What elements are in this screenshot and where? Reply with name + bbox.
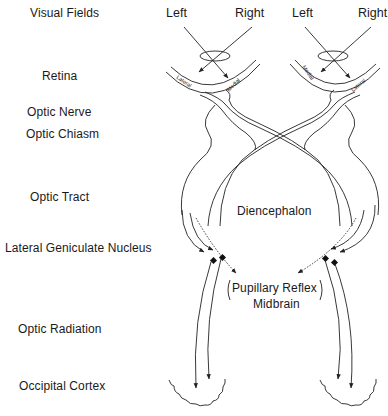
pupillary-branch-left	[196, 218, 236, 273]
retina-labels: Lateral Medial Medial Lateral	[175, 64, 366, 93]
radiation-right-inner	[325, 260, 340, 379]
tract-arrow-right-outer	[340, 205, 375, 252]
left-eye	[166, 27, 260, 93]
tract-arrow-right-inner	[331, 210, 364, 249]
right-eye	[290, 27, 380, 92]
radiation-left-inner	[208, 259, 221, 379]
visual-pathway-diagram: Visual Fields Retina Optic Nerve Optic C…	[0, 0, 388, 416]
right-eye-lateral-label: Lateral	[350, 77, 367, 92]
left-eye-medial-label: Medial	[225, 77, 241, 93]
radiation-right-outer	[335, 264, 352, 388]
pathway-drawing: Lateral Medial Medial Lateral	[0, 0, 388, 416]
lgn-synapse-markers	[210, 254, 338, 266]
bracket-left	[228, 280, 230, 300]
ray-right-to-lateral	[199, 27, 252, 72]
bracket-right	[320, 280, 322, 300]
occipital-cortex-right	[320, 379, 376, 406]
lens-icon	[318, 51, 348, 61]
tract-arrow-left-outer	[182, 210, 204, 252]
ray-right-to-medial	[321, 27, 371, 72]
lens-icon	[200, 51, 230, 61]
occipital-cortex-left	[169, 379, 225, 406]
